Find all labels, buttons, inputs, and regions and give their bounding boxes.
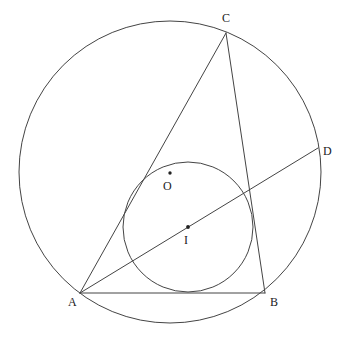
- segment-ac: [80, 33, 226, 293]
- label-point-b: B: [270, 296, 278, 308]
- segment-ad: [80, 148, 318, 293]
- geometry-canvas: [0, 0, 348, 340]
- label-circumcenter-o: O: [163, 180, 172, 192]
- circumcenter-dot: [168, 171, 171, 174]
- label-incenter-i: I: [184, 234, 188, 246]
- label-point-c: C: [222, 12, 230, 24]
- geometry-figure: A B C D O I: [0, 0, 348, 340]
- label-point-d: D: [323, 145, 332, 157]
- segment-cb: [226, 33, 265, 293]
- label-point-a: A: [68, 296, 77, 308]
- incenter-dot: [186, 225, 190, 229]
